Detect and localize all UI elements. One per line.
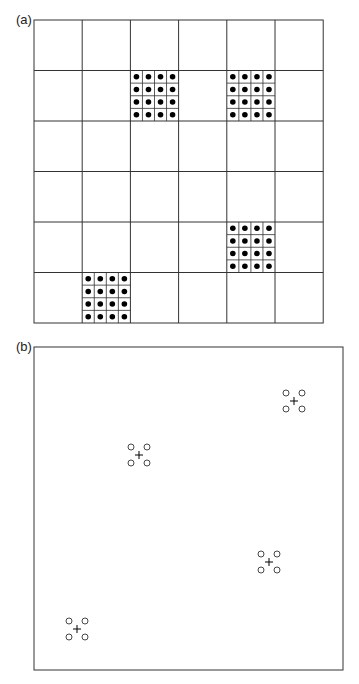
open-circle-marker [144,444,150,450]
open-circle-marker [299,390,305,396]
panel-b-cluster-diagram [0,0,359,684]
open-circle-marker [274,551,280,557]
open-circle-marker [274,567,280,573]
open-circle-marker [128,444,134,450]
open-circle-marker [82,618,88,624]
open-circle-marker [128,460,134,466]
open-circle-marker [283,406,289,412]
open-circle-marker [66,634,72,640]
open-circle-marker [258,551,264,557]
open-circle-marker [299,406,305,412]
open-circle-marker [66,618,72,624]
panel-b-border [34,347,343,670]
open-circle-marker [144,460,150,466]
point-cluster [128,444,150,466]
point-cluster [283,390,305,412]
open-circle-marker [283,390,289,396]
open-circle-marker [82,634,88,640]
open-circle-marker [258,567,264,573]
point-cluster [66,618,88,640]
point-cluster [258,551,280,573]
